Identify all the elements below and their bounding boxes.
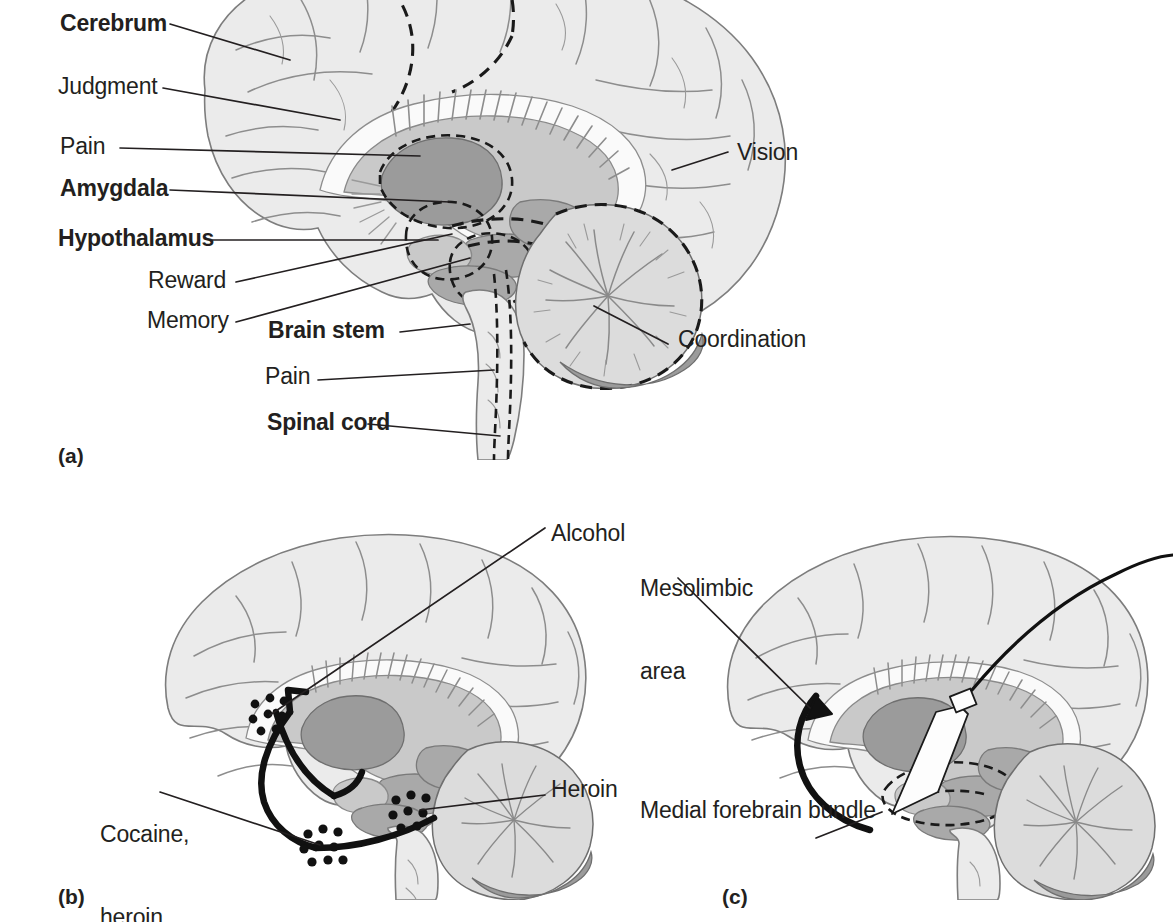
label-judgment: Judgment [58,74,157,100]
cocaine-line-1: Cocaine, [100,822,189,848]
figure-root: Cerebrum Judgment Pain Amygdala Hypothal… [0,0,1173,922]
label-pain-lower: Pain [265,364,310,390]
label-memory: Memory [147,308,229,334]
panel-tag-c: (c) [722,885,748,909]
mesolimbic-line-2: area [640,659,753,685]
label-reward: Reward [148,268,226,294]
label-mesolimbic-area: Mesolimbic area [640,524,753,736]
label-coordination: Coordination [678,327,806,353]
cocaine-line-2: heroin, [100,905,189,922]
panel-tag-b: (b) [58,885,85,909]
label-vision: Vision [737,140,798,166]
label-heroin: Heroin [551,777,618,803]
label-alcohol: Alcohol [551,521,625,547]
label-cerebrum: Cerebrum [60,11,167,37]
label-amygdala: Amygdala [60,176,168,202]
mesolimbic-line-1: Mesolimbic [640,576,753,602]
label-pain-upper: Pain [60,134,105,160]
label-cocaine-heroin-nicotine: Cocaine, heroin, nicotine [100,770,189,922]
panel-tag-a: (a) [58,444,84,468]
label-hypothalamus: Hypothalamus [58,226,214,252]
label-brain-stem: Brain stem [268,318,385,344]
label-medial-forebrain-bundle: Medial forebrain bundle [640,798,876,824]
label-spinal-cord: Spinal cord [267,410,390,436]
